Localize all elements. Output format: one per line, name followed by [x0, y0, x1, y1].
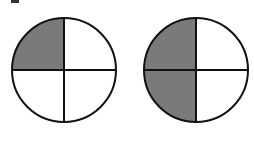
circle-right-two-quarters-shaded — [144, 18, 248, 122]
fraction-circles-diagram — [0, 0, 254, 149]
circle-left-one-quarter-shaded — [12, 18, 116, 122]
